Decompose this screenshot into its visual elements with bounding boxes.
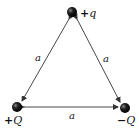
label-side-right: a [103, 53, 109, 64]
charge-top [67, 7, 77, 17]
label-side-left: a [35, 52, 41, 63]
label-side-bottom: a [69, 110, 75, 121]
label-bottom-left-charge: +Q [4, 114, 22, 127]
side-left-arrow [22, 19, 69, 101]
side-right-arrow [77, 19, 120, 102]
charge-bottom-right [120, 103, 130, 113]
label-bottom-right-charge: −Q [117, 114, 135, 127]
charge-bottom-left [12, 102, 22, 112]
charge-triangle-diagram: +q +Q −Q a a a [0, 0, 139, 129]
label-top-charge: +q [80, 7, 96, 20]
